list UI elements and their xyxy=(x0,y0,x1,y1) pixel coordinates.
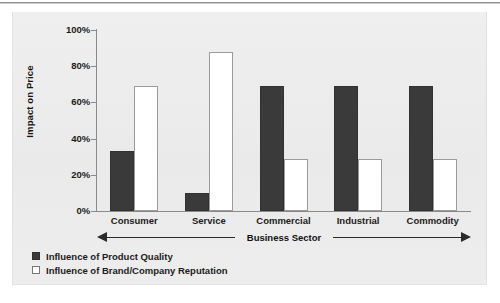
x-tick-label: Industrial xyxy=(321,215,396,226)
bar-product-quality xyxy=(110,151,134,211)
y-tick-label-wrap: 40% xyxy=(46,133,90,145)
bar-product-quality xyxy=(334,86,358,211)
bar-brand-reputation xyxy=(134,86,158,211)
y-tick-mark xyxy=(91,30,96,31)
axis-arrow-line-left xyxy=(106,237,235,238)
y-tick-label-wrap: 20% xyxy=(46,169,90,181)
bar-product-quality xyxy=(185,193,209,211)
legend-item: Influence of Brand/Company Reputation xyxy=(32,263,228,277)
bar-brand-reputation xyxy=(358,159,382,211)
legend-label: Influence of Brand/Company Reputation xyxy=(46,265,228,276)
y-tick-mark xyxy=(91,66,96,67)
bar-group xyxy=(260,29,308,211)
bar-group xyxy=(110,29,158,211)
bar-brand-reputation xyxy=(433,159,457,211)
arrow-right-icon xyxy=(461,232,471,242)
legend-swatch-icon xyxy=(32,252,40,260)
y-tick-mark xyxy=(91,175,96,176)
bar-product-quality xyxy=(260,86,284,211)
chart-figure: 0%20%40%60%80%100% Impact on Price Consu… xyxy=(0,0,500,303)
y-tick-label: 20% xyxy=(71,169,90,180)
axis-arrow-line-right xyxy=(333,237,462,238)
bar-brand-reputation xyxy=(209,52,233,211)
x-tick-label: Commercial xyxy=(246,215,321,226)
bar-group xyxy=(334,29,382,211)
x-axis-line xyxy=(96,211,471,212)
plot-area: 0%20%40%60%80%100% Impact on Price Consu… xyxy=(0,0,500,303)
legend-swatch-icon xyxy=(32,266,40,274)
y-axis-line xyxy=(96,29,97,212)
y-tick-mark xyxy=(91,102,96,103)
bar-group xyxy=(185,29,233,211)
y-tick-mark xyxy=(91,139,96,140)
y-tick-label: 80% xyxy=(71,60,90,71)
chart-legend: Influence of Product QualityInfluence of… xyxy=(32,249,228,277)
y-tick-label: 100% xyxy=(66,24,90,35)
x-tick-label: Consumer xyxy=(97,215,172,226)
y-tick-label-wrap: 80% xyxy=(46,60,90,72)
y-tick-label: 0% xyxy=(76,205,90,216)
x-axis-title: Business Sector xyxy=(241,228,327,248)
bar-product-quality xyxy=(409,86,433,211)
y-tick-label-wrap: 60% xyxy=(46,96,90,108)
y-tick-label: 60% xyxy=(71,96,90,107)
bar-group xyxy=(409,29,457,211)
y-tick-label-wrap: 0% xyxy=(46,205,90,217)
y-axis-title: Impact on Price xyxy=(24,47,35,157)
bar-brand-reputation xyxy=(284,159,308,211)
x-tick-label: Service xyxy=(172,215,247,226)
x-axis-title-arrow: Business Sector xyxy=(97,228,471,248)
legend-label: Influence of Product Quality xyxy=(46,251,173,262)
y-tick-label: 40% xyxy=(71,133,90,144)
y-tick-label-wrap: 100% xyxy=(46,24,90,36)
legend-item: Influence of Product Quality xyxy=(32,249,228,263)
x-tick-label: Commodity xyxy=(395,215,470,226)
y-tick-mark xyxy=(91,211,96,212)
